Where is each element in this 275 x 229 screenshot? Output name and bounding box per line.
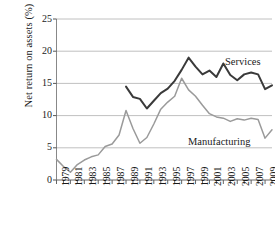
series-label-manufacturing: Manufacturing [188,136,250,147]
x-tick-label-1993: 1993 [158,167,168,186]
x-tick-label-2001: 2001 [213,167,223,186]
x-tick-label-1981: 1981 [74,167,84,186]
x-tick-label-1989: 1989 [130,167,140,186]
x-axis-tick-labels: 1979198119831985198719891991199319951997… [0,0,275,229]
series-label-services: Services [225,56,261,67]
x-tick-label-1999: 1999 [200,167,210,186]
x-tick-label-1979: 1979 [61,167,71,186]
chart-container: Net return on assets (%) 0510152025 1979… [0,0,275,229]
x-tick-label-2007: 2007 [255,167,265,186]
x-tick-label-2009: 2009 [269,167,275,186]
x-tick-label-1983: 1983 [88,167,98,186]
x-tick-label-2003: 2003 [227,167,237,186]
x-tick-label-1995: 1995 [172,167,182,186]
x-tick-label-1987: 1987 [116,167,126,186]
x-tick-label-1991: 1991 [144,167,154,186]
x-tick-label-2005: 2005 [241,167,251,186]
x-tick-label-1985: 1985 [102,167,112,186]
x-tick-label-1997: 1997 [186,167,196,186]
